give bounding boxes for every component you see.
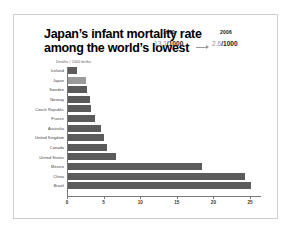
x-axis-tick-label: 15 — [174, 200, 179, 205]
x-axis-tick-mark — [213, 197, 214, 199]
bar — [67, 125, 101, 132]
bar-row: Canada — [14, 143, 279, 153]
bar-row: Mexico — [14, 162, 279, 172]
comparison-callout: 1970 2006 13.1/1000 2.6/1000 — [152, 29, 270, 59]
x-axis-tick-mark — [140, 197, 141, 199]
x-axis-tick-mark — [177, 197, 178, 199]
bar — [67, 67, 77, 74]
bar-category-label: Japan — [14, 78, 67, 83]
bar-track — [67, 143, 261, 153]
x-axis-tick-label: 20 — [211, 200, 216, 205]
bar — [67, 173, 245, 180]
bar-category-label: Mexico — [14, 164, 67, 169]
bar-row: Czech Republic — [14, 104, 279, 114]
bar-track — [67, 181, 261, 191]
bar-row: Australia — [14, 124, 279, 134]
bar-track — [67, 66, 261, 76]
callout-value-from-number: 13.1 — [154, 40, 167, 47]
x-axis-tick-mark — [104, 197, 105, 199]
bar — [67, 182, 251, 189]
bar — [67, 163, 202, 170]
bar-row: Norway — [14, 95, 279, 105]
bar-category-label: China — [14, 174, 67, 179]
bar-category-label: Iceland — [14, 68, 67, 73]
bar-row: Sweden — [14, 85, 279, 95]
slide-canvas: Japan’s infant mortality rate among the … — [13, 14, 278, 219]
x-axis-line — [67, 196, 261, 197]
bar-row: United Kingdom — [14, 133, 279, 143]
callout-value-from-unit: /1000 — [167, 40, 184, 47]
bar-track — [67, 172, 261, 182]
bar-category-label: Australia — [14, 126, 67, 131]
bar-track — [67, 162, 261, 172]
bar-chart-plot: IcelandJapanSwedenNorwayCzech RepublicFr… — [14, 66, 279, 196]
x-axis-tick-label: 5 — [102, 200, 105, 205]
bar-category-label: Brazil — [14, 183, 67, 188]
bar-row: Brazil — [14, 181, 279, 191]
bar-category-label: Norway — [14, 97, 67, 102]
bar-row: China — [14, 172, 279, 182]
bar-track — [67, 114, 261, 124]
bar-category-label: United Kingdom — [14, 135, 67, 140]
bar — [67, 105, 91, 112]
bar-row: France — [14, 114, 279, 124]
x-axis-tick-mark — [250, 197, 251, 199]
bar — [67, 77, 86, 84]
callout-year-to: 2006 — [220, 29, 232, 35]
bar-track — [67, 104, 261, 114]
bar-category-label: Canada — [14, 145, 67, 150]
bar — [67, 115, 95, 122]
bar-track — [67, 85, 261, 95]
right-arrow-icon — [196, 45, 210, 50]
bar — [67, 153, 116, 160]
bar — [67, 86, 87, 93]
bar — [67, 96, 90, 103]
callout-year-from: 1970 — [163, 29, 175, 35]
x-axis-tick-label: 25 — [247, 200, 252, 205]
x-axis-tick-mark — [67, 197, 68, 199]
x-axis-tick-label: 0 — [66, 200, 69, 205]
callout-value-to-number: 2.6 — [212, 40, 221, 47]
y-axis-line — [67, 67, 68, 197]
bar-row: Japan — [14, 76, 279, 86]
bar — [67, 144, 107, 151]
bar-row: Iceland — [14, 66, 279, 76]
bar-row: United States — [14, 152, 279, 162]
bar-track — [67, 95, 261, 105]
x-axis-tick-label: 10 — [138, 200, 143, 205]
bar-track — [67, 152, 261, 162]
bar-track — [67, 76, 261, 86]
callout-value-to: 2.6/1000 — [212, 40, 238, 47]
callout-value-to-unit: /1000 — [221, 40, 238, 47]
callout-value-from: 13.1/1000 — [154, 40, 183, 47]
axis-unit-note: Deaths / 1000 births — [56, 60, 91, 64]
bar-category-label: United States — [14, 155, 67, 160]
bar-category-label: France — [14, 116, 67, 121]
bar-category-label: Sweden — [14, 87, 67, 92]
bar-track — [67, 133, 261, 143]
bar-track — [67, 124, 261, 134]
bar — [67, 134, 104, 141]
bar-category-label: Czech Republic — [14, 107, 67, 112]
